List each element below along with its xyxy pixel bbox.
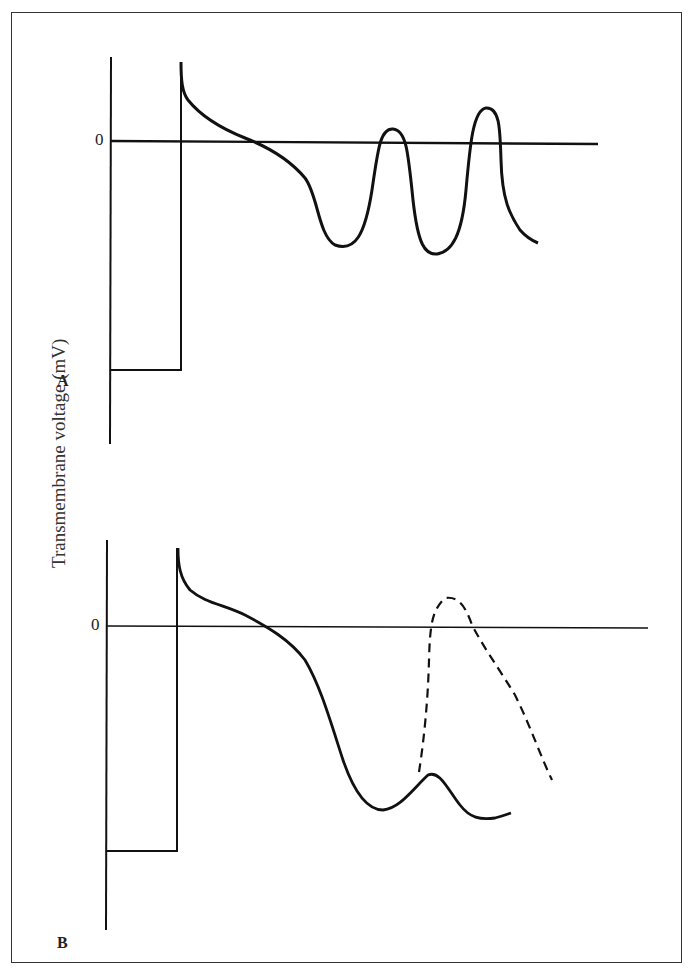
zero-label-a: 0 [95, 130, 104, 150]
panel-b [106, 540, 648, 930]
membrane-potential-trace-a [181, 62, 538, 254]
zero-line-a [111, 141, 598, 144]
panel-label-b: B [57, 934, 68, 952]
stimulus-trace-b [106, 548, 177, 851]
figure-canvas [0, 0, 695, 974]
y-axis-b [106, 540, 107, 930]
stimulus-trace-a [110, 62, 181, 370]
membrane-potential-trace-b [178, 548, 511, 819]
y-axis-label: Transmembrane voltage (mV) [48, 339, 70, 568]
zero-label-b: 0 [91, 615, 100, 635]
panel-a [110, 57, 598, 444]
y-axis-a [110, 57, 111, 444]
zero-line-b [107, 626, 648, 628]
triggered-response-trace-b [419, 598, 552, 780]
